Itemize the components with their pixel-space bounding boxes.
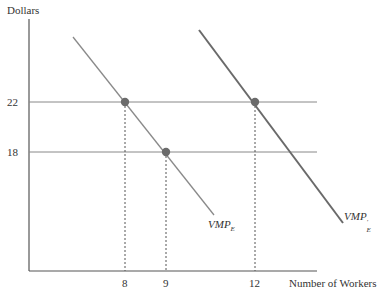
x-tick-8: 8 (122, 277, 128, 289)
vmp-e-label-main: VMP (208, 218, 231, 230)
x-axis-label: Number of Workers (289, 277, 377, 289)
vmp-e-prime-label-sub: E (367, 224, 371, 236)
vmp-e-prime-label: VMP'E (344, 210, 373, 222)
point-12-22 (251, 98, 259, 106)
x-tick-12: 12 (249, 277, 260, 289)
vmp-e-prime-curve (199, 30, 343, 223)
vmp-e-curve (73, 37, 214, 215)
vmp-e-label: VMPE (208, 218, 235, 235)
y-axis-label: Dollars (7, 4, 39, 16)
point-9-18 (162, 148, 170, 156)
vmp-e-prime-label-main: VMP (344, 210, 367, 222)
y-tick-22: 22 (7, 96, 18, 108)
y-tick-18: 18 (7, 146, 18, 158)
point-8-22 (121, 98, 129, 106)
chart-canvas (0, 0, 383, 293)
vmp-e-label-sub: E (231, 225, 235, 233)
x-tick-9: 9 (163, 277, 169, 289)
